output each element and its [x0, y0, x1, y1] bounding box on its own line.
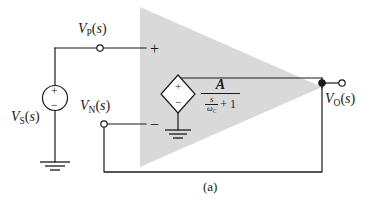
label-vn-var: V — [80, 98, 89, 113]
figure-caption: (a) — [203, 180, 217, 193]
node-vo — [319, 80, 326, 87]
label-vn-arg: (s) — [95, 98, 110, 113]
label-vo: VO(s) — [325, 92, 355, 108]
gain-fraction: A s ωC + 1 — [201, 78, 240, 114]
dependent-source-plus-sign: + — [175, 81, 181, 92]
gain-denominator-trailing: + 1 — [220, 98, 236, 110]
circuit-figure: + − + − + − VP(s) VN(s) VS(s) VO(s) A s … — [0, 0, 382, 200]
label-vp-arg: (s) — [92, 21, 107, 36]
terminal-vp[interactable] — [97, 45, 103, 51]
label-vo-var: V — [325, 91, 334, 106]
dependent-source-minus-sign: − — [175, 97, 181, 108]
op-amp-noninverting-sign: + — [150, 41, 159, 57]
label-vp: VP(s) — [78, 22, 107, 38]
label-vs-arg: (s) — [25, 109, 40, 124]
gain-denominator-numerator: s — [207, 95, 217, 104]
gain-denominator-denominator: ωC — [205, 105, 218, 114]
terminal-vn[interactable] — [101, 121, 107, 127]
gain-numerator: A — [210, 78, 231, 93]
gain-denominator: s ωC + 1 — [201, 94, 240, 114]
op-amp-inverting-sign: − — [150, 117, 159, 133]
label-vs: VS(s) — [11, 110, 40, 126]
label-vp-var: V — [78, 21, 87, 36]
gain-expression: A s ωC + 1 — [201, 78, 240, 114]
gain-denominator-fraction: s ωC — [205, 95, 218, 114]
ground-source — [40, 162, 70, 170]
label-vo-arg: (s) — [340, 91, 355, 106]
terminal-vo[interactable] — [339, 80, 345, 86]
label-vs-var: V — [11, 109, 20, 124]
vs-plus-sign: + — [51, 85, 58, 97]
label-vn: VN(s) — [80, 99, 110, 115]
vs-minus-sign: − — [51, 99, 58, 111]
